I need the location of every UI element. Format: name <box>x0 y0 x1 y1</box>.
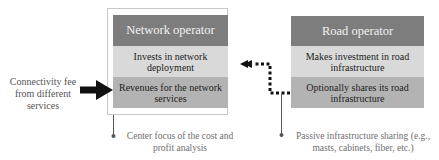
input-arrow-icon <box>80 80 113 100</box>
network-operator-annotation: Center focus of the cost and profit anal… <box>119 130 241 154</box>
road-operator-annotation: Passive infrastructure sharing (e.g., ma… <box>288 130 438 154</box>
network-annotation-pin-icon <box>112 115 116 138</box>
infrastructure-sharing-arrow-icon <box>240 60 290 93</box>
road-annotation-pin-icon <box>280 94 284 137</box>
